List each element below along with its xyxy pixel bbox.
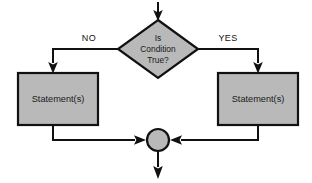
true-branch-merge-connector (170, 125, 258, 145)
false-branch-merge-connector (53, 125, 146, 145)
false-statement-box-label: Statement(s) (32, 94, 85, 104)
false-statement-box[interactable]: Statement(s) (18, 73, 98, 125)
entry-flow-arrow (153, 2, 163, 21)
yes-branch-connector (198, 49, 263, 74)
flowchart-canvas: Is Condition True? Statement(s) Statemen… (0, 0, 312, 183)
true-statement-box[interactable]: Statement(s) (218, 73, 298, 125)
decision-diamond[interactable]: Is Condition True? (118, 20, 198, 78)
decision-line-1: Is (155, 33, 162, 43)
no-branch-label: NO (82, 33, 96, 43)
decision-line-3: True? (147, 55, 169, 65)
no-branch-connector (48, 49, 118, 74)
true-statement-box-label: Statement(s) (232, 94, 285, 104)
merge-connector-circle[interactable] (147, 129, 169, 151)
yes-branch-label: YES (218, 33, 237, 43)
decision-line-2: Condition (140, 44, 176, 54)
exit-flow-arrow (153, 151, 163, 179)
flowchart-svg: Is Condition True? Statement(s) Statemen… (0, 0, 312, 183)
